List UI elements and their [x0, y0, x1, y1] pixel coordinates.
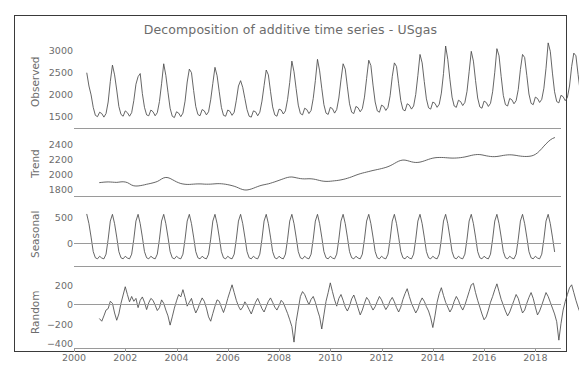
- trend-ytick-2400: 2400: [49, 138, 73, 149]
- seasonal-axis-label-col: Seasonal: [27, 204, 43, 264]
- seasonal-zero-line: [74, 243, 561, 244]
- panel-label-seasonal: Seasonal: [27, 204, 43, 264]
- random-baseline: [74, 348, 561, 349]
- observed-ytick-3000: 3000: [49, 44, 73, 55]
- random-ytick--200: −200: [47, 318, 73, 329]
- observed-ytick-2000: 2000: [49, 89, 73, 100]
- seasonal-ytick-500: 500: [55, 212, 73, 223]
- seasonal-series-line: [87, 214, 555, 258]
- trend-ytick-1800: 1800: [49, 184, 73, 195]
- xtick-label-2000: 2000: [62, 352, 86, 363]
- random-plot-area: [74, 278, 561, 346]
- random-axis-label-col: Random: [27, 278, 43, 346]
- observed-axis-label-col: Observed: [27, 38, 43, 126]
- trend-axis-label-col: Trend: [27, 134, 43, 194]
- trend-ytick-2000: 2000: [49, 169, 73, 180]
- observed-series-line: [87, 42, 579, 118]
- seasonal-baseline: [74, 266, 561, 267]
- random-ytick-200: 200: [55, 279, 73, 290]
- xtick-label-2006: 2006: [216, 352, 240, 363]
- observed-ytick-2500: 2500: [49, 66, 73, 77]
- xtick-label-2004: 2004: [164, 352, 188, 363]
- xtick-label-2014: 2014: [421, 352, 445, 363]
- chart-figure: Decomposition of additive time series - …: [14, 15, 567, 352]
- xtick-label-2008: 2008: [267, 352, 291, 363]
- observed-plot-area: [74, 38, 561, 126]
- panel-label-observed: Observed: [27, 38, 43, 126]
- seasonal-ytick-labels: 0500: [43, 204, 73, 264]
- xtick-label-2016: 2016: [472, 352, 496, 363]
- random-zero-line: [74, 304, 561, 305]
- xtick-label-2018: 2018: [523, 352, 547, 363]
- observed-baseline: [74, 128, 561, 129]
- trend-plot-area: [74, 134, 561, 194]
- panel-label-random: Random: [27, 278, 43, 346]
- panel-trend: Trend 1800200022002400: [15, 134, 568, 194]
- xtick-label-2012: 2012: [369, 352, 393, 363]
- random-ytick--400: −400: [47, 338, 73, 349]
- panel-seasonal: Seasonal 0500: [15, 204, 568, 264]
- observed-ytick-labels: 1500200025003000: [43, 38, 73, 126]
- observed-ytick-1500: 1500: [49, 111, 73, 122]
- trend-ytick-labels: 1800200022002400: [43, 134, 73, 194]
- panel-observed: Observed 1500200025003000: [15, 38, 568, 126]
- seasonal-ytick-0: 0: [67, 238, 73, 249]
- random-ytick-labels: −400−2000200: [43, 278, 73, 346]
- trend-series-line: [100, 138, 555, 190]
- chart-title: Decomposition of additive time series - …: [15, 22, 566, 37]
- trend-baseline: [74, 196, 561, 197]
- seasonal-plot-area: [74, 204, 561, 264]
- panel-random: Random −400−2000200: [15, 278, 568, 346]
- random-series-line: [100, 283, 579, 342]
- panel-label-trend: Trend: [27, 134, 43, 194]
- trend-ytick-2200: 2200: [49, 154, 73, 165]
- random-ytick-0: 0: [67, 299, 73, 310]
- xtick-label-2002: 2002: [113, 352, 137, 363]
- xtick-label-2010: 2010: [318, 352, 342, 363]
